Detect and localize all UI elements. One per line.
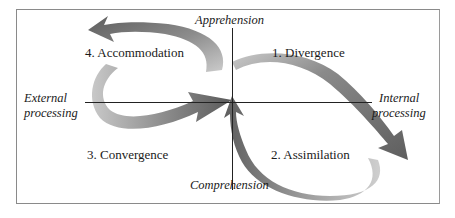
- axis-label-external-processing: processing: [24, 107, 78, 120]
- stage-label-divergence: 1. Divergence: [272, 46, 345, 59]
- stage-label-convergence: 3. Convergence: [87, 148, 168, 161]
- stage-label-assimilation: 2. Assimilation: [271, 148, 350, 161]
- axis-label-apprehension: Apprehension: [195, 14, 264, 27]
- arrow-convergence: [92, 64, 232, 129]
- axis-label-internal-processing: processing: [372, 107, 426, 120]
- axis-label-external: External: [24, 92, 67, 105]
- axis-label-internal: Internal: [379, 92, 419, 105]
- stage-label-accommodation: 4. Accommodation: [85, 46, 184, 59]
- axis-label-comprehension: Comprehension: [190, 179, 269, 192]
